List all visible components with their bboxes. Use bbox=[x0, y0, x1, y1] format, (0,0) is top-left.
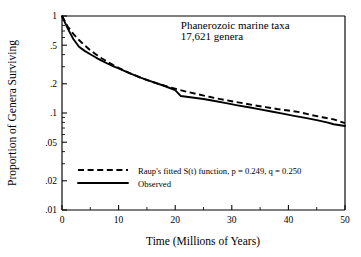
y-tick-label-1: .5 bbox=[50, 41, 57, 51]
x-axis-title: Time (Millions of Years) bbox=[146, 235, 260, 248]
legend-label-raup-fitted: Raup's fitted S(t) function, p = 0.249, … bbox=[138, 166, 301, 176]
taxa-label: Phanerozoic marine taxa bbox=[181, 19, 290, 31]
y-axis-ticks bbox=[62, 16, 67, 210]
figure-container: 1.5.2.1.05.02.01 01020304050 Phanerozoic… bbox=[0, 0, 361, 257]
y-tick-label-6: .01 bbox=[45, 205, 57, 215]
y-axis-title: Proportion of Genera Surviving bbox=[6, 40, 19, 186]
x-tick-label-5: 50 bbox=[340, 215, 350, 225]
x-tick-label-3: 30 bbox=[227, 215, 237, 225]
y-tick-label-0: 1 bbox=[52, 11, 57, 21]
legend-label-observed: Observed bbox=[138, 179, 172, 189]
survivorship-chart: 1.5.2.1.05.02.01 01020304050 Phanerozoic… bbox=[0, 0, 361, 257]
x-tick-label-4: 40 bbox=[284, 215, 294, 225]
genera-count-label: 17,621 genera bbox=[181, 30, 243, 42]
y-tick-label-2: .2 bbox=[50, 79, 57, 89]
x-tick-label-1: 10 bbox=[114, 215, 124, 225]
x-tick-label-2: 20 bbox=[170, 215, 180, 225]
x-tick-label-0: 0 bbox=[60, 215, 65, 225]
y-tick-label-5: .02 bbox=[45, 176, 57, 186]
y-tick-label-4: .05 bbox=[45, 138, 57, 148]
y-tick-label-3: .1 bbox=[50, 108, 57, 118]
